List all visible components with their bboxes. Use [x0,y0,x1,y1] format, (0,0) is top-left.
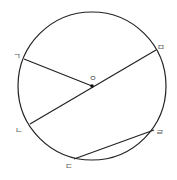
center-dot [90,84,94,88]
segment-giyeok-center [24,59,92,86]
segment-digeut-rieul [74,130,154,159]
label-center-o: ㅇ [89,73,97,83]
label-giyeok: ㄱ [13,51,21,61]
label-rieul: ㄹ [156,127,164,137]
circle-diagram: ㅇ ㄱ ㄴ ㄷ ㄹ ㅁ [0,0,177,180]
label-mieum: ㅁ [157,42,165,52]
label-nieun: ㄴ [15,125,23,135]
diagram-canvas: ㅇ ㄱ ㄴ ㄷ ㄹ ㅁ [0,0,177,180]
label-digeut: ㄷ [65,161,73,171]
